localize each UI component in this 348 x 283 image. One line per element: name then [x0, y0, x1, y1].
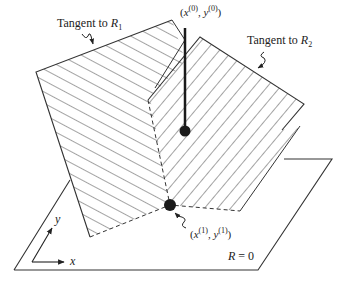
label-xsup: (1)	[199, 226, 208, 235]
label-ysup: (1)	[218, 226, 227, 235]
label-plane: R = 0	[228, 249, 254, 264]
pointer-r2-icon	[258, 52, 265, 68]
label-ysup: (0)	[208, 4, 217, 13]
point-0	[180, 126, 191, 137]
label-tangent-r1: Tangent to R1	[57, 16, 122, 32]
label-tangent-r2: Tangent to R2	[247, 33, 312, 49]
pointer-point1-icon	[175, 213, 186, 228]
axis-y-icon	[32, 228, 52, 262]
point-1	[164, 199, 176, 211]
axis-x-label: x	[70, 254, 75, 268]
label-text: = 0	[235, 249, 254, 263]
label-point-1: (x(1), y(1))	[190, 226, 231, 240]
label-sub: 2	[308, 40, 312, 49]
label-point-0: (x(0), y(0))	[180, 4, 221, 18]
axis-y-label: y	[55, 212, 60, 226]
label-xsup: (0)	[189, 4, 198, 13]
label-text: Tangent to	[57, 16, 111, 30]
label-axis-y: y	[55, 212, 60, 227]
label-text: Tangent to	[247, 33, 301, 47]
label-sub: 1	[118, 23, 122, 32]
label-axis-x: x	[70, 254, 75, 269]
pointer-r1-icon	[82, 34, 93, 44]
